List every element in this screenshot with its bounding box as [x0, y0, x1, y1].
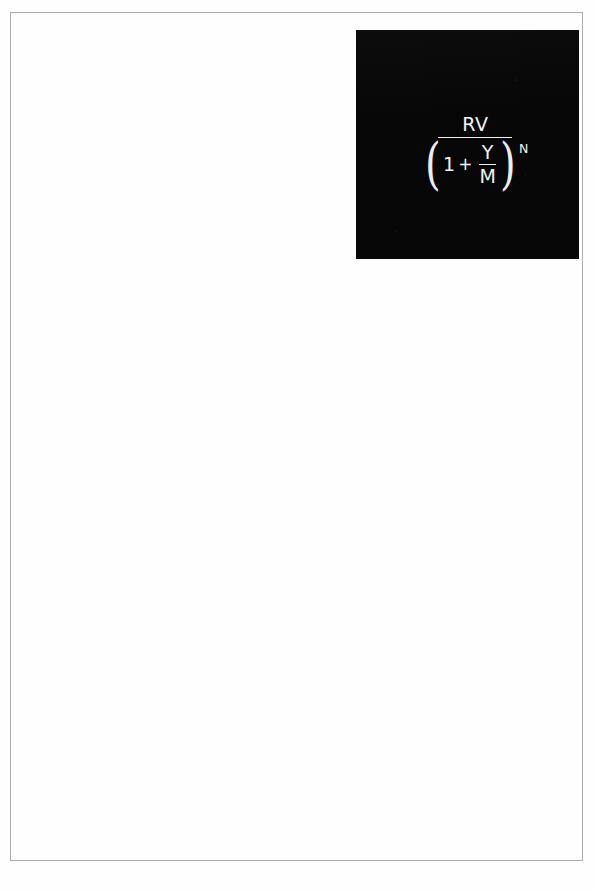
- inner-fraction-denominator: M: [477, 165, 498, 186]
- formula-plate: RV ( 1 + Y M: [356, 30, 579, 259]
- outer-fraction-denominator: ( 1 + Y M ) N: [422, 138, 529, 186]
- inner-fraction-numerator: Y: [480, 143, 496, 164]
- close-paren-glyph: ): [500, 142, 516, 186]
- plus-operator: +: [458, 156, 475, 173]
- parenthesised-group: ( 1 + Y M ) N: [422, 142, 529, 186]
- inner-fraction: Y M: [475, 143, 498, 186]
- first-term: 1: [443, 155, 458, 174]
- paren-contents: 1 + Y M: [442, 142, 499, 186]
- outer-fraction: RV ( 1 + Y M: [422, 115, 529, 186]
- math-formula: RV ( 1 + Y M: [422, 115, 529, 186]
- outer-fraction-numerator: RV: [456, 115, 494, 137]
- open-paren-glyph: (: [425, 142, 441, 186]
- exponent-n: N: [519, 143, 529, 156]
- page-sheet: RV ( 1 + Y M: [0, 0, 594, 892]
